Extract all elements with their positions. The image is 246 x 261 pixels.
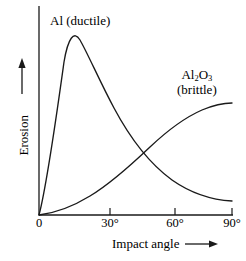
- x-tick-label-0: 0: [29, 216, 49, 231]
- x-axis-title-text: Impact angle: [112, 237, 180, 252]
- series-label-alumina-brittle: Al2O3 (brittle): [177, 68, 217, 98]
- alumina-formula: Al2O3: [181, 67, 212, 82]
- x-tick-label-90: 90°: [217, 216, 246, 231]
- y-axis-title: Erosion: [17, 99, 32, 171]
- alumina-al: Al: [181, 67, 194, 82]
- alumina-o: O: [199, 67, 208, 82]
- x-axis-title: Impact angle: [112, 237, 219, 252]
- curve-alumina-brittle: [39, 103, 232, 215]
- erosion-vs-impact-angle-chart: Al (ductile) Al2O3 (brittle) 0 30° 60° 9…: [0, 0, 246, 261]
- series-label-al-ductile: Al (ductile): [50, 14, 110, 29]
- x-tick-label-30: 30°: [95, 216, 125, 231]
- x-axis-arrow-icon: [185, 239, 219, 249]
- alumina-subscript-3: 3: [208, 73, 212, 83]
- x-tick-label-60: 60°: [160, 216, 190, 231]
- curve-al-ductile: [39, 36, 232, 215]
- alumina-brittle-text: (brittle): [177, 83, 217, 98]
- y-axis-arrow-icon: [18, 58, 25, 94]
